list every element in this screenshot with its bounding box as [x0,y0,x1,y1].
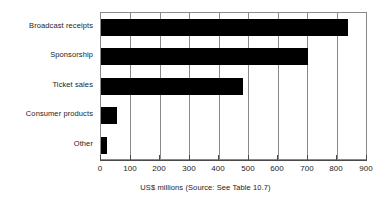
x-tick-label-900: 900 [353,164,379,174]
x-tick-0 [100,155,101,161]
x-tick-label-200: 200 [146,164,172,174]
bar-ticket-sales [101,78,243,95]
bar-broadcast-receipts [101,19,348,36]
x-tick-800 [336,155,337,161]
category-label-other: Other [0,139,93,148]
x-tick-label-0: 0 [87,164,113,174]
x-axis-title: US$ millions (Source: See Table 10.7) [0,183,387,193]
x-tick-label-700: 700 [294,164,320,174]
x-tick-label-100: 100 [117,164,143,174]
category-label-broadcast-receipts: Broadcast receipts [0,21,93,30]
bar-consumer-products [101,107,117,124]
x-tick-label-800: 800 [323,164,349,174]
category-label-consumer-products: Consumer products [0,109,93,118]
plot-area [100,12,367,160]
bar-other [101,137,107,154]
x-axis-title-text: US$ millions (Source: See Table 10.7) [116,183,270,192]
x-tick-label-300: 300 [176,164,202,174]
x-tick-100 [130,155,131,161]
x-tick-600 [277,155,278,161]
category-label-ticket-sales: Ticket sales [0,80,93,89]
x-tick-200 [159,155,160,161]
category-axis-labels: Broadcast receipts Sponsorship Ticket sa… [0,12,97,160]
x-tick-label-500: 500 [235,164,261,174]
x-tick-label-600: 600 [264,164,290,174]
x-axis-line [100,160,367,161]
x-tick-500 [248,155,249,161]
category-label-sponsorship: Sponsorship [0,50,93,59]
x-tick-400 [218,155,219,161]
x-tick-300 [189,155,190,161]
x-tick-900 [366,155,367,161]
x-tick-label-400: 400 [205,164,231,174]
bar-chart: Broadcast receipts Sponsorship Ticket sa… [0,0,387,206]
x-tick-700 [307,155,308,161]
bar-sponsorship [101,48,308,65]
